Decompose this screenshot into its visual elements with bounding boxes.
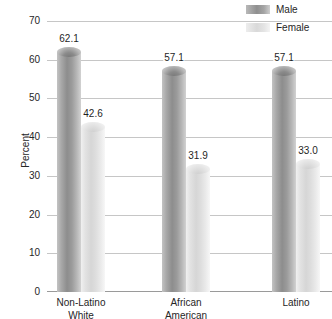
bar-body (186, 169, 210, 293)
ytick-label-30: 30 (16, 171, 40, 181)
bar-female-african-american: 31.9 (186, 169, 210, 293)
legend-item-male: Male (246, 2, 332, 16)
bar-body (81, 127, 105, 292)
bar-male-non-latino-white: 62.1 (57, 52, 81, 293)
bar-body (272, 71, 296, 292)
bar-body (57, 52, 81, 293)
grouped-bar-chart: Male Female 70 60 50 40 30 20 10 0 Perce… (0, 0, 332, 319)
xaxis-category-line2: American (126, 309, 246, 319)
ytick-label-50: 50 (16, 93, 40, 103)
bar-female-latino: 33.0 (296, 164, 320, 292)
bar-value-label: 57.1 (163, 52, 184, 63)
bar-male-latino: 57.1 (272, 71, 296, 292)
bar-body (296, 164, 320, 292)
ytick-label-20: 20 (16, 210, 40, 220)
xaxis-category-latino: Latino (236, 296, 332, 309)
bar-cap (272, 66, 296, 76)
legend-swatch-male-icon (246, 5, 270, 14)
bar-value-label: 57.1 (273, 52, 294, 63)
xaxis-category-line2: White (21, 309, 141, 319)
xaxis-category-african-american: African American (126, 296, 246, 319)
xaxis-category-line1: African (170, 297, 201, 308)
bar-value-label: 33.0 (297, 145, 318, 156)
bar-cap (57, 47, 81, 57)
gridline-70 (47, 21, 332, 22)
ytick-label-10: 10 (16, 248, 40, 258)
ytick-label-60: 60 (16, 55, 40, 65)
xaxis-category-line1: Non-Latino (57, 297, 106, 308)
bar-value-label: 42.6 (82, 108, 103, 119)
bar-cap (186, 164, 210, 174)
bar-body (162, 71, 186, 292)
xaxis-category-line1: Latino (282, 297, 309, 308)
ytick-label-70: 70 (16, 16, 40, 26)
bar-cap (162, 66, 186, 76)
bar-female-non-latino-white: 42.6 (81, 127, 105, 292)
y-axis-label: Percent (20, 133, 31, 167)
plot-area: 70 60 50 40 30 20 10 0 Percent 62.1 42.6… (47, 21, 332, 292)
bar-value-label: 31.9 (187, 150, 208, 161)
bar-male-african-american: 57.1 (162, 71, 186, 292)
legend-label-male: Male (276, 4, 298, 15)
xaxis-category-non-latino-white: Non-Latino White (21, 296, 141, 319)
bar-value-label: 62.1 (58, 33, 79, 44)
